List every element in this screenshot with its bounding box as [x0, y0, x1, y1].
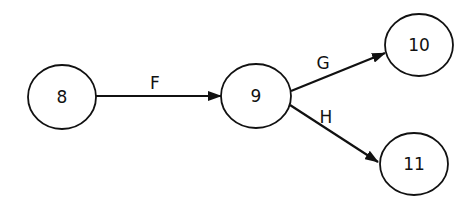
node-label-11: 11 — [403, 154, 425, 174]
node-8: 8 — [28, 65, 96, 129]
edge-G: G — [291, 53, 385, 91]
edge-label-H: H — [320, 107, 333, 127]
edge-H: H — [290, 105, 378, 162]
edge-F: F — [96, 73, 221, 96]
edge-label-F: F — [150, 73, 160, 93]
node-label-10: 10 — [408, 35, 430, 55]
node-11: 11 — [380, 133, 448, 195]
node-label-8: 8 — [57, 87, 68, 107]
node-10: 10 — [385, 14, 453, 76]
node-9: 9 — [221, 64, 291, 128]
node-label-9: 9 — [251, 86, 262, 106]
edge-label-G: G — [316, 53, 329, 73]
network-diagram: F G H 8 9 10 11 — [0, 0, 469, 199]
